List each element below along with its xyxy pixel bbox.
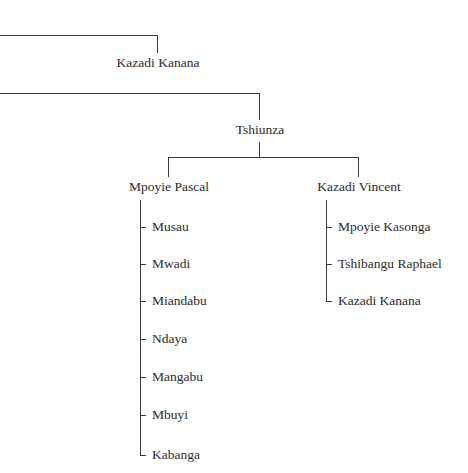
- connector-line: [259, 142, 260, 157]
- node-kazadi-kanana-top: Kazadi Kanana: [117, 55, 200, 71]
- child-mwadi: Mwadi: [152, 256, 190, 272]
- child-musau: Musau: [152, 219, 189, 235]
- child-miandabu: Miandabu: [152, 293, 207, 309]
- tick: [140, 455, 146, 456]
- connector-line: [358, 157, 359, 177]
- connector-line: [259, 93, 260, 120]
- child-ndaya: Ndaya: [152, 331, 187, 347]
- tick: [326, 264, 332, 265]
- node-mpoyie-pascal: Mpoyie Pascal: [129, 179, 209, 195]
- connector-line: [157, 35, 158, 53]
- children-spine: [140, 200, 141, 456]
- node-kazadi-vincent: Kazadi Vincent: [317, 179, 400, 195]
- child-tshibangu-raphael: Tshibangu Raphael: [338, 256, 442, 272]
- tick: [140, 339, 146, 340]
- child-kazadi-kanana: Kazadi Kanana: [338, 293, 421, 309]
- child-mangabu: Mangabu: [152, 369, 203, 385]
- connector-line: [168, 157, 359, 158]
- tick: [140, 301, 146, 302]
- tick: [140, 264, 146, 265]
- node-tshiunza: Tshiunza: [236, 122, 285, 138]
- tick: [140, 415, 146, 416]
- tick: [326, 227, 332, 228]
- child-mpoyie-kasonga: Mpoyie Kasonga: [338, 219, 431, 235]
- child-kabanga: Kabanga: [152, 447, 200, 463]
- connector-line: [168, 157, 169, 177]
- connector-line: [0, 35, 158, 36]
- children-spine: [326, 200, 327, 302]
- tick: [326, 301, 332, 302]
- tick: [140, 227, 146, 228]
- tick: [140, 377, 146, 378]
- child-mbuyi: Mbuyi: [152, 407, 188, 423]
- connector-line: [0, 93, 260, 94]
